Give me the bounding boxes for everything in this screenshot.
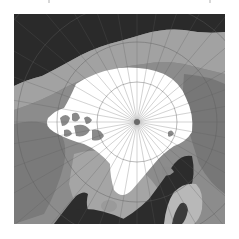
iceland <box>101 200 117 212</box>
frame-tick-right <box>209 0 211 3</box>
north-pole-marker <box>134 119 140 125</box>
arctic-map <box>14 14 225 224</box>
frame-tick-left <box>48 0 50 3</box>
